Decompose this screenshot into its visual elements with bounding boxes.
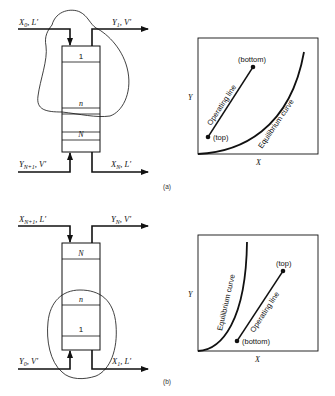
outlet-vapor-top [92, 29, 148, 46]
point-label: (top) [213, 133, 229, 142]
stream-label: XN, L′ [110, 159, 131, 170]
y-axis-label: Y [188, 93, 194, 102]
operating-line [208, 67, 253, 137]
pipes-b [18, 226, 148, 369]
operating-line-label: Operating line [248, 290, 281, 334]
stage-label: n [79, 295, 83, 304]
equilibrium-curve-label: Equilibrium curve [215, 273, 237, 331]
y-axis-label: Y [188, 290, 194, 299]
equilibrium-curve-label: Equilibrium curve [256, 97, 296, 150]
inlet-liquid-top [18, 29, 70, 45]
stream-label: YN, V′ [111, 214, 131, 225]
panel-b: N n 1 XN+1, L′ YN, V′ Y0, V′ X1, L′ (bot… [18, 214, 318, 386]
diagram-canvas: 1 n N X0, L′ Y1, V′ YN+1, V′ XN, L′ (top… [0, 0, 335, 396]
point-top [206, 135, 211, 140]
stream-label: YN+1, V′ [19, 159, 46, 170]
point-label: (top) [276, 259, 292, 268]
outlet-vapor-top [92, 226, 148, 243]
plot-b: (bottom) (top) Operating line Equilibriu… [188, 235, 318, 364]
stage-label: N [77, 249, 84, 258]
stream-label: Y1, V′ [112, 17, 131, 28]
point-top [281, 269, 286, 274]
stream-label: XN+1, L′ [18, 214, 46, 225]
x-axis-label: X [254, 355, 261, 364]
stream-label: Y0, V′ [19, 356, 38, 367]
stream-label: X0, L′ [18, 17, 38, 28]
stage-label: N [77, 130, 84, 139]
point-bottom [235, 339, 240, 344]
stage-label: 1 [79, 52, 84, 61]
stage-label: n [79, 99, 83, 108]
plot-frame [198, 235, 318, 351]
caption-b: (b) [163, 378, 171, 386]
point-bottom [251, 65, 256, 70]
panel-a: 1 n N X0, L′ Y1, V′ YN+1, V′ XN, L′ (top… [18, 10, 318, 191]
point-label: (bottom) [242, 337, 270, 346]
plot-a: (top) (bottom) Operating line Equilibriu… [188, 38, 318, 167]
stream-label: X1, L′ [111, 356, 131, 367]
caption-a: (a) [163, 183, 171, 191]
point-label: (bottom) [238, 55, 266, 64]
x-axis-label: X [255, 158, 262, 167]
stage-label: 1 [79, 325, 84, 334]
operating-line-label: Operating line [205, 83, 238, 127]
inlet-liquid-top [18, 226, 70, 242]
